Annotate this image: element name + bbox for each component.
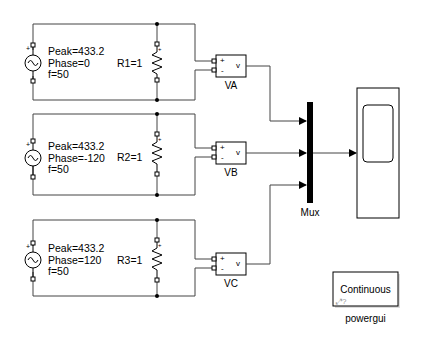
voltmeter-vb[interactable] bbox=[212, 142, 246, 164]
powergui-mode-text: Continuous bbox=[333, 284, 398, 295]
svg-text:+: + bbox=[158, 242, 162, 248]
vc-output-port-label: v bbox=[236, 260, 240, 268]
voltmeter-vb-label: VB bbox=[216, 167, 246, 178]
resistor-zigzag-icon bbox=[152, 52, 162, 74]
resistor-r1-label: R1=1 bbox=[117, 58, 142, 69]
vb-minus-port-label: - bbox=[221, 154, 224, 162]
source-b-peak: Peak=433.2 bbox=[48, 141, 105, 153]
powergui-link-icon: ⤢? bbox=[335, 297, 347, 306]
source-c-peak: Peak=433.2 bbox=[48, 243, 104, 255]
scope-block[interactable] bbox=[357, 88, 399, 218]
ac-voltage-source-a[interactable]: + bbox=[25, 43, 41, 83]
powergui-label: powergui bbox=[333, 313, 398, 324]
resistor-r3-label: R3=1 bbox=[117, 255, 142, 266]
source-c-freq: f=50 bbox=[48, 266, 104, 278]
source-a-peak: Peak=433.2 bbox=[48, 46, 104, 58]
svg-text:+: + bbox=[158, 46, 162, 52]
signal-lines bbox=[246, 66, 356, 264]
junction-dot bbox=[155, 294, 159, 298]
voltmeter-vc-label: VC bbox=[216, 278, 246, 289]
source-c-params: Peak=433.2 Phase=120 f=50 bbox=[48, 243, 104, 278]
junction-dot bbox=[155, 112, 159, 116]
resistor-zigzag-icon bbox=[152, 142, 162, 164]
ac-voltage-source-c[interactable]: + bbox=[25, 241, 41, 281]
resistor-zigzag-icon bbox=[152, 248, 162, 270]
ac-voltage-source-b[interactable]: + bbox=[25, 139, 41, 179]
voltmeter-vc[interactable] bbox=[212, 253, 246, 275]
va-minus-port-label: - bbox=[221, 67, 224, 75]
svg-text:+: + bbox=[26, 141, 30, 148]
source-b-freq: f=50 bbox=[48, 164, 105, 176]
mux-block[interactable] bbox=[307, 102, 313, 203]
source-a-params: Peak=433.2 Phase=0 f=50 bbox=[48, 46, 104, 81]
vb-output-port-label: v bbox=[236, 149, 240, 157]
mux-label: Mux bbox=[295, 207, 325, 218]
resistor-r2-label: R2=1 bbox=[117, 152, 142, 163]
junction-dot bbox=[155, 22, 159, 26]
voltmeter-va-label: VA bbox=[216, 80, 246, 91]
resistor-r2[interactable]: + bbox=[152, 132, 162, 176]
svg-text:+: + bbox=[26, 45, 30, 52]
source-a-freq: f=50 bbox=[48, 69, 104, 81]
scope-screen-icon bbox=[363, 105, 393, 162]
vc-minus-port-label: - bbox=[221, 265, 224, 273]
source-b-params: Peak=433.2 Phase=-120 f=50 bbox=[48, 141, 105, 176]
resistor-r1[interactable]: + bbox=[152, 42, 162, 82]
junction-dot bbox=[155, 98, 159, 102]
vb-plus-port-label: + bbox=[220, 144, 225, 152]
svg-text:+: + bbox=[26, 243, 30, 250]
voltmeter-va[interactable] bbox=[212, 55, 246, 77]
va-plus-port-label: + bbox=[220, 57, 225, 65]
vc-plus-port-label: + bbox=[220, 255, 225, 263]
junction-dot bbox=[155, 218, 159, 222]
junction-dot bbox=[155, 193, 159, 197]
resistor-r3[interactable]: + bbox=[152, 238, 162, 282]
va-output-port-label: v bbox=[236, 62, 240, 70]
svg-text:+: + bbox=[158, 136, 162, 142]
